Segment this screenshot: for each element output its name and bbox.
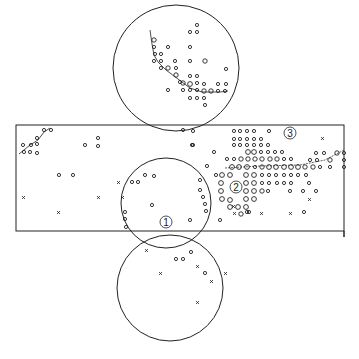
- strip-left-points: [19, 128, 100, 177]
- region-label-2: 2: [233, 182, 239, 193]
- bottom-circle-points: [174, 250, 206, 274]
- region-labels: [160, 127, 296, 228]
- region-label-1: 1: [163, 217, 169, 228]
- top-circle-points: [150, 23, 228, 106]
- middle-circle: [121, 158, 211, 248]
- diagram-canvas: 1 2 3: [0, 0, 359, 359]
- bottom-circle: [117, 235, 223, 341]
- region-label-3: 3: [287, 128, 293, 139]
- projection-strip: [16, 125, 344, 231]
- strip-right-points: [181, 128, 345, 221]
- projection-diagram: 1 2 3: [0, 0, 359, 359]
- strip-left-crosses: [22, 181, 124, 214]
- strip-right-crosses: [232, 137, 324, 215]
- top-circle: [113, 5, 239, 131]
- bottom-circle-crosses: [145, 249, 227, 304]
